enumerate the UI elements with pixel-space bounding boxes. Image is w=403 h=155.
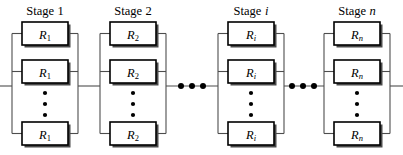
stage-label-2: Stage2 — [114, 4, 152, 18]
vertical-ellipsis-i — [249, 91, 253, 117]
vertical-ellipsis-n — [355, 91, 359, 117]
horizontal-ellipsis-1 — [178, 83, 206, 89]
stage-group-1: Stage1 R1 R1 R1 — [12, 4, 78, 148]
stage-group-2: Stage2 R2 R2 R2 — [100, 4, 166, 148]
vertical-ellipsis-2 — [131, 91, 135, 117]
stage-label-n: Stagen — [338, 4, 376, 18]
horizontal-ellipsis-2 — [289, 83, 317, 89]
stage-label-1: Stage1 — [26, 4, 64, 18]
reliability-block-diagram: Stage1 R1 R1 R1 — [0, 0, 403, 155]
stage-label-i: Stagei — [234, 4, 269, 18]
stage-group-i: Stagei Ri Ri Ri — [218, 4, 284, 148]
diagram-canvas: Stage1 R1 R1 R1 — [0, 0, 403, 155]
vertical-ellipsis-1 — [43, 91, 47, 117]
stage-group-n: Stagen Rn Rn Rn — [324, 4, 390, 148]
